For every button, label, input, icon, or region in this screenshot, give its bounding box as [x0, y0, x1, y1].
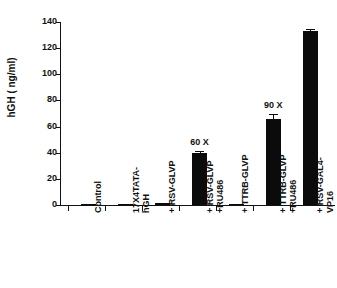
x-tick-mark	[179, 206, 180, 211]
bar-annotation: 90 X	[253, 100, 293, 110]
x-tick-mark	[253, 206, 254, 211]
error-bar-cap	[306, 29, 315, 30]
x-category-label: + RSV-GLVP +RU486	[205, 160, 225, 213]
x-category-label: + RSV-GAL4- VP16	[315, 157, 335, 213]
y-tick-label: 40	[47, 147, 57, 157]
y-tick-label: 0	[52, 199, 57, 209]
bar-annotation: 60 X	[180, 137, 220, 147]
y-tick-label: 100	[42, 68, 57, 78]
x-category-label: + TTRB-GLVP +RU486	[278, 154, 298, 213]
x-category-label: + RSV-GLVP	[167, 160, 177, 213]
error-bar-cap	[195, 151, 204, 152]
bar-chart: hGH ( ng/ml) 020406080100120140 60 X90 X…	[0, 0, 337, 288]
y-tick-label: 140	[42, 16, 57, 26]
plot-area: 020406080100120140 60 X90 X Control17X4T…	[60, 22, 335, 205]
y-axis-title: hGH ( ng/ml)	[6, 51, 17, 125]
x-tick-mark	[68, 206, 69, 211]
y-tick-label: 120	[42, 42, 57, 52]
x-category-label: Control	[93, 181, 103, 213]
error-bar-cap	[269, 114, 278, 115]
x-tick-mark	[105, 206, 106, 211]
y-tick-label: 60	[47, 121, 57, 131]
y-tick-label: 80	[47, 94, 57, 104]
y-tick-label: 20	[47, 173, 57, 183]
x-category-label: + TTRB-GLVP	[240, 154, 250, 213]
x-category-label: 17X4TATA- hGH	[131, 167, 151, 213]
